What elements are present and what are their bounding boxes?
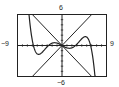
graph-window <box>0 0 119 87</box>
